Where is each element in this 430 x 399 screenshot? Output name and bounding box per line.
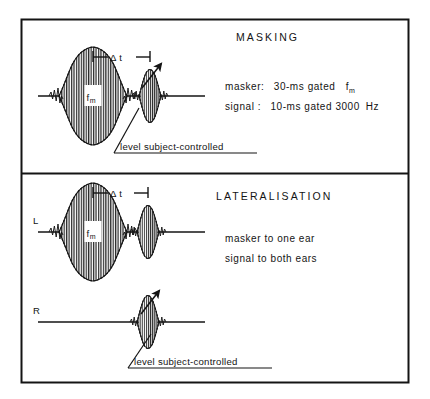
figure-root: MASKING masker: 30-ms gated fm signal : … bbox=[0, 0, 430, 399]
lateralisation-line-1: masker to one ear bbox=[225, 233, 315, 244]
svg-text:signal : 10-ms gated 3: signal : 10-ms gated 3000 Hz bbox=[225, 101, 379, 112]
panel-lateralisation: LATERALISATION masker to one ear signal … bbox=[33, 183, 333, 368]
masking-callout: level subject-controlled bbox=[114, 108, 257, 153]
lateralisation-left-signal-burst bbox=[130, 206, 166, 259]
channel-label-left: L bbox=[33, 215, 38, 226]
lateralisation-interval-label: Δ t bbox=[110, 188, 122, 199]
svg-text:masker: 30-ms gated: masker: 30-ms gated fm bbox=[225, 81, 355, 94]
signal-line-unit: Hz bbox=[366, 101, 379, 112]
masker-line-label: masker: bbox=[225, 81, 264, 92]
lateralisation-right-signal-burst bbox=[130, 296, 166, 349]
masker-line-subscript: m bbox=[349, 87, 355, 94]
panel-lateralisation-heading: LATERALISATION bbox=[216, 190, 333, 202]
masking-callout-label: level subject-controlled bbox=[120, 141, 224, 152]
channel-label-right: R bbox=[33, 305, 40, 316]
panel-masking-spec-lines: masker: 30-ms gated fm signal : 10-ms ga… bbox=[225, 81, 379, 112]
masker-line-value: 30-ms gated bbox=[274, 81, 336, 92]
masking-interval-label: Δ t bbox=[110, 52, 122, 63]
lateralisation-line-2: signal to both ears bbox=[225, 253, 317, 264]
signal-line-value: 10-ms gated 3000 bbox=[270, 101, 359, 112]
panel-masking: MASKING masker: 30-ms gated fm signal : … bbox=[38, 31, 379, 153]
signal-line-label: signal : bbox=[225, 101, 261, 112]
lateralisation-callout-label: level subject-controlled bbox=[134, 356, 238, 367]
panel-lateralisation-spec-lines: masker to one ear signal to both ears bbox=[225, 233, 317, 264]
panel-masking-heading: MASKING bbox=[236, 31, 299, 43]
lateralisation-masker-symbol-subscript: m bbox=[90, 233, 96, 240]
masker-symbol-subscript: m bbox=[90, 97, 96, 104]
